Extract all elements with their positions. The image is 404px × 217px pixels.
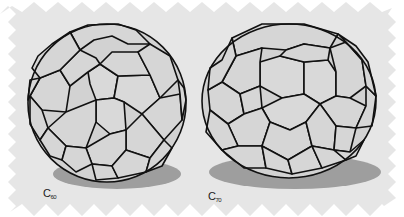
c60-molecule	[28, 24, 186, 182]
c70-label-subscript: 70	[215, 197, 221, 203]
c70-label: C70	[208, 190, 221, 203]
c70-molecule	[202, 24, 376, 178]
c60-label: C60	[43, 187, 56, 200]
fullerene-illustration	[0, 0, 404, 217]
c60-label-subscript: 60	[50, 194, 56, 200]
